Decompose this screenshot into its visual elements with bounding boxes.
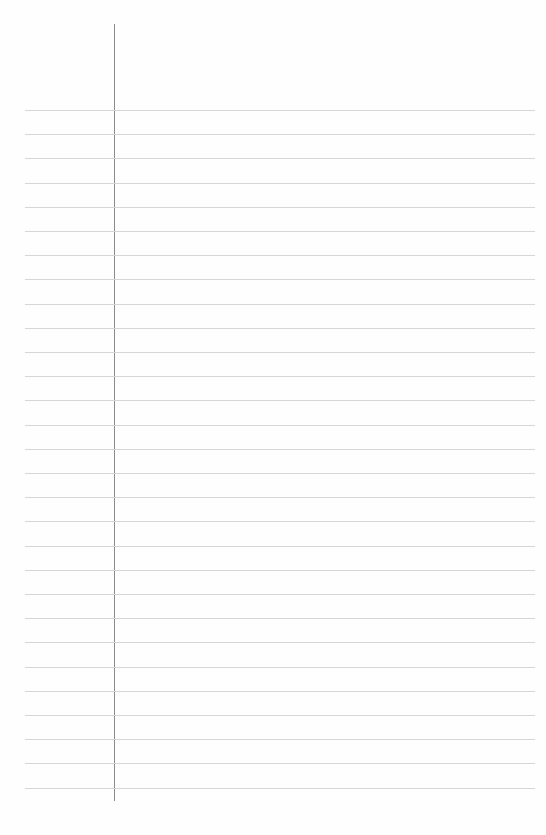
ruled-line xyxy=(25,497,535,498)
ruled-line xyxy=(25,691,535,692)
ruled-line xyxy=(25,231,535,232)
ruled-line xyxy=(25,570,535,571)
ruled-line xyxy=(25,255,535,256)
ruled-line xyxy=(25,739,535,740)
ruled-line xyxy=(25,352,535,353)
ruled-line xyxy=(25,473,535,474)
ruled-line xyxy=(25,788,535,789)
ruled-line xyxy=(25,328,535,329)
ruled-line xyxy=(25,400,535,401)
ruled-line xyxy=(25,207,535,208)
ruled-line xyxy=(25,521,535,522)
ruled-line xyxy=(25,158,535,159)
ruled-line xyxy=(25,134,535,135)
lined-paper-page xyxy=(0,0,546,835)
ruled-line xyxy=(25,715,535,716)
ruled-line xyxy=(25,183,535,184)
ruled-line xyxy=(25,618,535,619)
margin-line xyxy=(114,24,115,801)
ruled-line xyxy=(25,110,535,111)
ruled-line xyxy=(25,763,535,764)
ruled-line xyxy=(25,449,535,450)
ruled-line xyxy=(25,376,535,377)
ruled-line xyxy=(25,667,535,668)
ruled-line xyxy=(25,546,535,547)
ruled-line xyxy=(25,594,535,595)
ruled-line xyxy=(25,279,535,280)
ruled-line xyxy=(25,304,535,305)
ruled-line xyxy=(25,642,535,643)
ruled-line xyxy=(25,425,535,426)
